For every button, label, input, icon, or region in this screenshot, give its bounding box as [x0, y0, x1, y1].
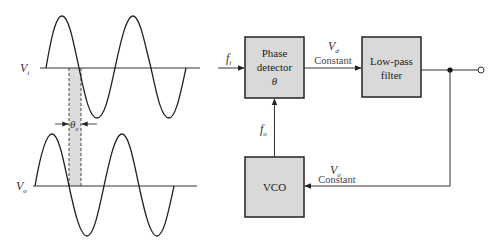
block-diagram: fi Phase detector θ Vd Constant Low-pass… [218, 37, 484, 217]
input-sine-wave [46, 16, 186, 118]
input-wave-label: Vi [20, 61, 29, 77]
filter-label-1: Low-pass [370, 55, 413, 67]
feedback-freq-label: fo [260, 122, 267, 138]
detector-output-note: Constant [314, 55, 351, 66]
waveform-panel: Vi Vo θe [16, 16, 200, 236]
output-sine-wave [35, 134, 174, 236]
input-freq-label: fi [226, 51, 231, 67]
filter-label-2: filter [381, 69, 403, 81]
control-voltage-note: Constant [318, 174, 355, 185]
output-terminal [478, 67, 484, 73]
low-pass-filter-block [362, 37, 421, 97]
vco-label: VCO [263, 181, 286, 193]
detector-output-label: Vd [328, 39, 339, 55]
phase-detector-label-2: detector [257, 61, 293, 73]
phase-detector-theta: θ [272, 75, 278, 87]
phase-detector-label-1: Phase [262, 47, 288, 59]
output-wave-label: Vo [16, 179, 27, 195]
pll-diagram: Vi Vo θe fi Phase detector θ Vd Constant… [0, 0, 495, 250]
